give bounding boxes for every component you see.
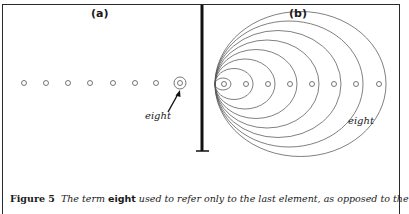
panel-a-eight-label: eight [145, 110, 171, 121]
panel-b-elements [222, 82, 382, 87]
caption-text-before: The term [61, 193, 108, 204]
figure-number: Figure 5 [10, 193, 55, 204]
containment-ellipse [215, 69, 253, 100]
containment-ellipse [215, 59, 275, 109]
element-circle [111, 81, 116, 86]
element-circle [354, 82, 359, 87]
element-circle [377, 82, 382, 87]
element-circle [244, 82, 249, 87]
element-circle [222, 82, 227, 87]
panel-b-containment-ellipses [215, 12, 386, 157]
containment-ellipse [215, 12, 386, 157]
element-circle [154, 81, 159, 86]
element-circle [88, 81, 93, 86]
element-circle [266, 82, 271, 87]
panel-a-label: (a) [91, 7, 108, 20]
panel-b-label: (b) [289, 7, 307, 20]
containment-ellipse [215, 78, 231, 90]
element-circle [66, 81, 71, 86]
panel-b-eight-label: eight [348, 115, 374, 126]
containment-ellipse [215, 31, 341, 138]
element-circle [332, 82, 337, 87]
arrow-icon [168, 90, 181, 112]
panel-divider [196, 5, 209, 151]
element-circle [288, 82, 293, 87]
element-circle [22, 81, 27, 86]
panel-a-elements [22, 77, 187, 89]
element-circle [44, 81, 49, 86]
figure-caption: Figure 5The term eight used to refer onl… [10, 193, 402, 204]
element-circle [310, 82, 315, 87]
containment-ellipse [215, 50, 297, 119]
highlight-ring [174, 77, 186, 89]
element-circle [178, 81, 183, 86]
element-circle [133, 81, 138, 86]
containment-ellipse [215, 40, 319, 128]
caption-term: eight [108, 193, 136, 204]
caption-text-after: used to refer only to the last element, … [136, 193, 409, 204]
